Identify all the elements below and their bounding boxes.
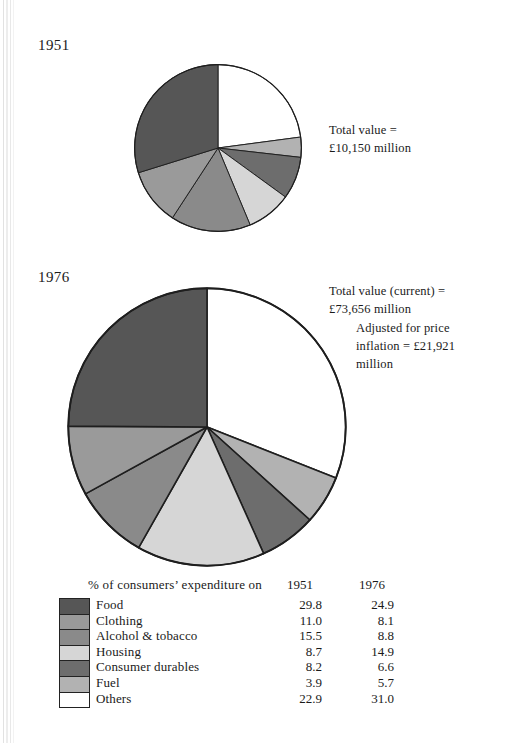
legend-title: % of consumers’ expenditure on [88,577,262,593]
legend-column-header-1976: 1976 [349,577,395,593]
annotation-adjusted-value-1976: Adjusted for price inflation = £21,921 m… [356,320,501,373]
legend-value-1951: 11.0 [276,613,322,629]
legend-value-1976: 5.7 [348,675,394,691]
pie-slice-food [68,288,207,427]
legend-swatch [60,661,89,676]
legend-row: Alcohol & tobacco15.58.8 [60,630,89,646]
legend-row-label: Consumer durables [96,659,199,675]
legend-swatch [60,677,89,692]
legend-value-1976: 14.9 [348,644,394,660]
legend-row-label: Alcohol & tobacco [96,628,197,644]
page-gutter-line-1 [3,0,4,743]
legend-row-label: Clothing [96,613,143,629]
page-gutter-line-2 [6,0,8,743]
pie-slice-others [218,65,301,148]
legend-value-1976: 8.8 [348,628,394,644]
legend-swatch [60,646,89,661]
annotation-total-value-1951: Total value = £10,150 million [329,122,489,158]
legend-swatch [60,599,89,614]
legend-value-1976: 6.6 [348,659,394,675]
pie-chart-1976-svg [64,284,350,570]
legend-value-1976: 24.9 [348,597,394,613]
legend-header-row: % of consumers’ expenditure on 1951 1976 [59,577,459,596]
legend-row-label: Food [96,597,123,613]
legend-row: Fuel3.95.7 [60,677,89,693]
panel-year-label-1951: 1951 [38,37,70,54]
legend-table: % of consumers’ expenditure on 1951 1976… [59,577,459,708]
legend-swatch [60,630,89,645]
annotation-total-value-current-1976: Total value (current) = £73,656 million [329,283,497,319]
legend-row: Others22.931.0 [60,693,89,708]
legend-value-1951: 22.9 [276,691,322,707]
legend-row-list: Food29.824.9Clothing11.08.1Alcohol & tob… [59,598,90,708]
legend-row: Clothing11.08.1 [60,615,89,631]
legend-value-1951: 8.2 [276,659,322,675]
legend-swatch [60,693,89,708]
legend-value-1951: 8.7 [276,644,322,660]
legend-swatch [60,615,89,630]
legend-value-1951: 29.8 [276,597,322,613]
legend-column-header-1951: 1951 [277,577,323,593]
legend-value-1976: 31.0 [348,691,394,707]
pie-chart-1976 [64,284,350,570]
legend-value-1976: 8.1 [348,613,394,629]
page-gutter-line-4 [13,0,14,743]
legend-value-1951: 3.9 [276,675,322,691]
legend-row: Food29.824.9 [60,599,89,615]
legend-row-label: Fuel [96,675,120,691]
legend-row-label: Housing [96,644,141,660]
pie-chart-1951-svg [132,62,304,234]
pie-chart-1951 [132,62,304,234]
legend-row-label: Others [96,691,132,707]
legend-value-1951: 15.5 [276,628,322,644]
page-gutter-line-3 [10,0,11,743]
legend-row: Consumer durables8.26.6 [60,661,89,677]
legend-row: Housing8.714.9 [60,646,89,662]
